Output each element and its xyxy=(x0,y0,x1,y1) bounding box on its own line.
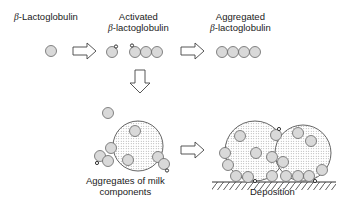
activated-protein xyxy=(107,45,118,58)
milk-component-aggregate xyxy=(95,108,170,173)
activated-protein-chain xyxy=(130,44,163,58)
arrow-right-icon xyxy=(181,43,204,59)
deposit-on-surface xyxy=(212,121,336,190)
arrow-right-icon xyxy=(181,142,204,158)
diagram-canvas xyxy=(0,0,342,221)
arrow-down-icon xyxy=(130,70,150,93)
arrow-right-icon xyxy=(73,43,96,59)
aggregated-protein-chain xyxy=(217,47,261,58)
native-protein xyxy=(46,46,57,57)
